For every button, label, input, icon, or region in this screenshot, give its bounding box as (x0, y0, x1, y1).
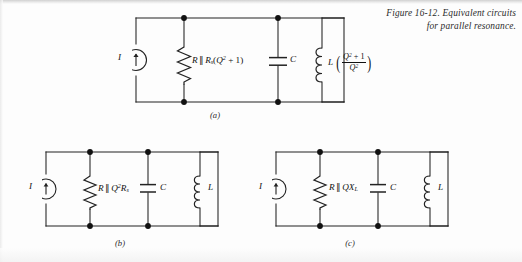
resistor-label-c-q: Q (342, 182, 349, 192)
circuit-diagram-a: R∥Rs(Q2 + 1) C L ( Q2 + 1 Q2 ) I (132, 14, 348, 106)
current-source-a (132, 50, 147, 71)
scan-edge-shading-left (0, 0, 3, 262)
circuit-a-sublabel: (a) (195, 110, 235, 120)
resistor-zigzag-icon (84, 176, 96, 210)
resistor-zigzag-icon (178, 47, 191, 85)
current-source-arrow-up-icon (44, 183, 49, 194)
inductor-coil-icon (194, 176, 200, 208)
circuit-diagram-b: R∥Q2Rs C L I (42, 148, 222, 230)
inductor-coil-icon (316, 48, 322, 82)
inductor-label-a-fraction: ( Q2 + 1 Q2 ) (335, 53, 372, 73)
inductor-label-a-num-tail: + 1 (352, 52, 365, 61)
junction-dot (275, 99, 281, 105)
inductor-label-a-l: L (328, 57, 333, 67)
circuit-a-resistor-label: R∥Rs(Q2 + 1) (192, 55, 243, 65)
junction-dot (317, 223, 323, 229)
resistor-label-a-parallel: ∥ (198, 55, 206, 65)
circuit-a-capacitor-label: C (290, 55, 296, 64)
resistor-label-a-plus-one: + 1) (226, 55, 243, 65)
current-source-circle-b (42, 179, 56, 199)
circuit-a-source-label: I (118, 53, 121, 62)
circuit-c-inductor-label: L (438, 183, 443, 192)
resistor-label-b-q: Q (111, 183, 118, 193)
circuit-c-capacitor-label: C (390, 183, 396, 192)
inductor-label-a-den-sup: 2 (355, 63, 358, 69)
capacitor-plates-icon (140, 185, 156, 192)
current-source-circle-c (272, 179, 286, 199)
circuit-b-sublabel: (b) (100, 238, 140, 248)
circuit-b-source-label: I (29, 182, 32, 191)
junction-dot (275, 15, 281, 21)
junction-dot (181, 15, 187, 21)
inductor-label-a-denominator: Q2 (348, 63, 359, 72)
junction-dot (181, 99, 187, 105)
circuit-c-resistor-label: R∥QXL (329, 183, 358, 192)
circuit-b-inductor-label: L (208, 183, 213, 192)
scan-edge-shading-top (0, 0, 522, 4)
junction-dot (145, 149, 151, 155)
resistor-label-a-q: Q (216, 55, 223, 65)
figure-page: Figure 16-12. Equivalent circuits for pa… (0, 0, 522, 262)
inductor-label-a-numerator: Q2 + 1 (342, 53, 365, 62)
resistor-label-c-parallel: ∥ (335, 182, 343, 192)
resistor-label-a-r: R (192, 55, 198, 65)
inductor-coil-icon (424, 176, 430, 208)
figure-caption-line-2: for parallel resonance. (356, 20, 516, 33)
resistor-zigzag-icon (314, 176, 326, 210)
inductor-label-a-frac: Q2 + 1 Q2 (342, 53, 365, 73)
resistor-label-c-x-sub: L (354, 186, 357, 192)
current-source-arrow-up-icon (274, 183, 279, 194)
circuit-b-schematic (42, 148, 222, 230)
circuit-c-source-label: I (259, 182, 262, 191)
scan-edge-shading-bottom (0, 248, 522, 262)
resistor-label-c-r: R (329, 182, 335, 192)
circuit-b-resistor-label: R∥Q2Rs (98, 183, 129, 193)
circuit-b-capacitor-label: C (160, 183, 166, 192)
resistor-label-b-rs-sub: s (126, 187, 128, 193)
current-source-arrow-up-icon (133, 53, 138, 66)
junction-dot (375, 223, 381, 229)
junction-dot (145, 223, 151, 229)
resistor-label-b-parallel: ∥ (104, 183, 112, 193)
circuit-a-inductor-label: L ( Q2 + 1 Q2 ) (328, 53, 372, 73)
circuit-c-schematic (272, 148, 452, 230)
capacitor-plates-icon (269, 58, 287, 66)
figure-caption-line-1: Figure 16-12. Equivalent circuits (356, 7, 516, 20)
junction-dot (87, 149, 93, 155)
resistor-label-b-r: R (98, 183, 104, 193)
circuit-c-sublabel: (c) (330, 238, 370, 248)
circuit-diagram-c: R∥QXL C L I (272, 148, 452, 230)
junction-dot (317, 149, 323, 155)
capacitor-plates-icon (370, 185, 386, 192)
current-source-b (42, 179, 56, 199)
junction-dot (87, 223, 93, 229)
figure-caption: Figure 16-12. Equivalent circuits for pa… (356, 7, 516, 32)
current-source-c (272, 179, 286, 199)
current-source-circle-a (132, 50, 147, 71)
junction-dot (375, 149, 381, 155)
